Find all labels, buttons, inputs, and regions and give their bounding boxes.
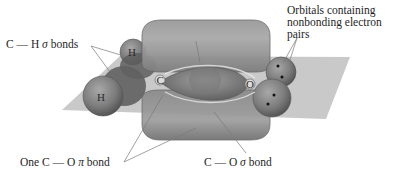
svg-text:H: H: [128, 46, 136, 58]
svg-text:C: C: [157, 74, 164, 86]
electron-dot: [273, 94, 276, 97]
label-ch-sigma-bonds: C — H σ bonds: [6, 38, 78, 50]
label-co-sigma-bond: C — O σ bond: [204, 156, 272, 168]
label-nonbonding-orbitals: Orbitals containing nonbonding electron …: [287, 4, 382, 40]
formaldehyde-orbital-diagram: C O H H C — H σ bonds One C — O π bond C…: [0, 0, 398, 176]
pi-lobe-top: [142, 20, 270, 72]
svg-text:H: H: [97, 91, 105, 103]
electron-dot: [281, 76, 284, 79]
label-co-pi-bond: One C — O π bond: [20, 156, 110, 168]
svg-text:O: O: [246, 78, 254, 90]
electron-dot: [277, 65, 280, 68]
electron-dot: [267, 103, 270, 106]
nonbonding-lobe-lower: [253, 79, 291, 117]
